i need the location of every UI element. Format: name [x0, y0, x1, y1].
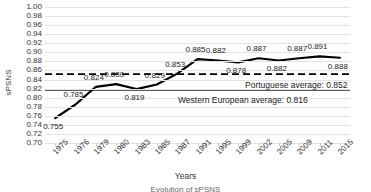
y-axis-tick-label: 0.88	[8, 57, 42, 65]
data-point-label: 0.882	[206, 47, 226, 55]
data-point-label: 0.878	[226, 67, 246, 75]
gridline	[45, 61, 350, 62]
data-point-label: 0.885	[186, 46, 206, 54]
data-point-label: 0.755	[43, 123, 63, 131]
y-axis-tick-label: 0.84	[8, 76, 42, 84]
y-axis-tick-label: 0.74	[8, 121, 42, 129]
gridline	[45, 34, 350, 35]
y-axis-tick-label: 0.78	[8, 103, 42, 111]
y-axis-tick-label: 0.70	[8, 139, 42, 147]
y-axis-tick-label: 0.82	[8, 85, 42, 93]
data-point-label: 0.888	[328, 63, 348, 71]
data-point-label: 0.882	[267, 65, 287, 73]
chart-container: sPSNS 1.000.980.960.940.920.900.880.860.…	[0, 0, 371, 192]
x-axis-title: Years	[0, 171, 371, 181]
gridline	[45, 116, 350, 117]
data-point-label: 0.887	[287, 45, 307, 53]
gridline	[45, 7, 350, 8]
gridline	[45, 125, 350, 126]
y-axis-tick-label: 0.96	[8, 21, 42, 29]
y-axis-tick-label: 0.72	[8, 130, 42, 138]
data-point-label: 0.819	[125, 94, 145, 102]
data-point-label: 0.824	[84, 74, 104, 82]
y-axis-tick-label: 0.86	[8, 66, 42, 74]
y-axis-tick-label: 0.80	[8, 94, 42, 102]
y-axis-tick-label: 0.76	[8, 112, 42, 120]
y-axis-tick-label: 0.98	[8, 12, 42, 20]
data-point-label: 0.829	[145, 72, 165, 80]
portuguese-average-label: Portuguese average: 0.852	[245, 80, 348, 90]
gridline	[45, 70, 350, 71]
y-axis-tick-labels: 1.000.980.960.940.920.900.880.860.840.82…	[6, 0, 42, 192]
western-european-average-label: Western European average: 0.816	[178, 95, 308, 105]
y-axis-tick-label: 0.94	[8, 30, 42, 38]
gridline	[45, 16, 350, 17]
plot-area: 0.7550.7850.8240.8300.8190.8290.8530.885…	[45, 7, 350, 143]
y-axis-tick-label: 1.00	[8, 3, 42, 11]
gridline	[45, 134, 350, 135]
data-point-label: 0.785	[64, 91, 84, 99]
y-axis-tick-label: 0.90	[8, 48, 42, 56]
y-axis-tick-label: 0.92	[8, 39, 42, 47]
gridline	[45, 25, 350, 26]
figure-caption: Evolution of sPSNS	[0, 185, 371, 192]
data-point-label: 0.853	[165, 61, 185, 69]
data-point-label: 0.830	[104, 71, 124, 79]
data-point-label: 0.891	[308, 43, 328, 51]
data-point-label: 0.887	[247, 45, 267, 53]
gridline	[45, 107, 350, 108]
